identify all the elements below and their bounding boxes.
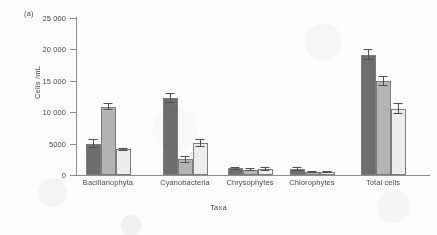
bar-slot <box>391 18 406 175</box>
y-axis-tick <box>70 18 76 19</box>
bar-slot <box>376 18 391 175</box>
error-bar <box>104 103 113 111</box>
error-bar <box>246 168 255 171</box>
y-axis-tick-label: 10 000 <box>42 108 66 117</box>
bar-group <box>228 18 273 175</box>
y-axis-tick <box>70 144 76 145</box>
error-bar <box>308 171 317 174</box>
bar <box>376 81 391 175</box>
figure-panel-a: (a) 25 00020 00015 00010 00050000 Cells … <box>0 0 437 235</box>
error-bar <box>323 171 332 174</box>
bar <box>391 109 406 175</box>
bar-slot <box>228 18 243 175</box>
bar <box>101 107 116 175</box>
bar <box>163 98 178 175</box>
error-bar <box>89 139 98 148</box>
x-axis-line <box>76 175 430 176</box>
y-axis-tick <box>70 49 76 50</box>
bar-slot <box>101 18 116 175</box>
y-axis-tick <box>70 112 76 113</box>
bar-slot <box>361 18 376 175</box>
bar-slot <box>243 18 258 175</box>
error-bar <box>231 167 240 171</box>
bar-group <box>361 18 406 175</box>
bar-slot <box>163 18 178 175</box>
bar <box>361 55 376 175</box>
bar-slot <box>290 18 305 175</box>
error-bar <box>166 93 175 103</box>
bar <box>86 144 101 175</box>
y-axis-tick-label: 5000 <box>49 139 66 148</box>
bar-slot <box>86 18 101 175</box>
y-axis-tick-label: 15 000 <box>42 76 66 85</box>
bar-slot <box>193 18 208 175</box>
bar <box>193 143 208 175</box>
y-axis-tick-label: 25 000 <box>42 14 66 23</box>
y-axis-tick <box>70 175 76 176</box>
y-axis-tick-label: 20 000 <box>42 45 66 54</box>
bar-slot <box>305 18 320 175</box>
error-bar <box>293 167 302 171</box>
error-bar <box>181 156 190 164</box>
x-axis-title: Taxa <box>0 203 437 212</box>
error-bar <box>394 103 403 114</box>
bar <box>116 149 131 175</box>
error-bar <box>261 167 270 171</box>
bar-group <box>86 18 131 175</box>
bar-slot <box>320 18 335 175</box>
error-bar <box>379 76 388 86</box>
bar-group <box>163 18 208 175</box>
error-bar <box>364 49 373 60</box>
bar-slot <box>258 18 273 175</box>
y-axis-line <box>76 17 77 176</box>
y-axis-tick <box>70 81 76 82</box>
bar-slot <box>178 18 193 175</box>
error-bar <box>119 148 128 151</box>
bar-slot <box>116 18 131 175</box>
x-axis-category-label: Total cells <box>323 178 437 187</box>
bar-group <box>290 18 335 175</box>
error-bar <box>196 139 205 147</box>
y-axis-title: Cells /mL <box>33 38 42 128</box>
